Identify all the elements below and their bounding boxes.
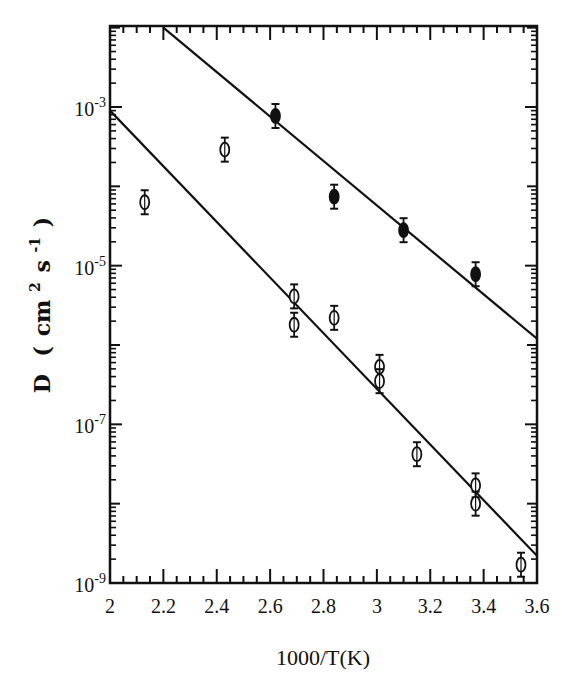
y-axis-label: D ( cm 2 s -1 )	[19, 217, 55, 393]
x-tick-label: 3.6	[525, 595, 550, 617]
y-tick-label: 10-9	[74, 571, 106, 596]
y-tick-label: 10-7	[74, 412, 106, 437]
fit-lines	[110, 28, 537, 556]
filled-data-point	[330, 185, 339, 209]
x-tick-label: 2	[105, 595, 115, 617]
x-axis-label: 1000/T(K)	[276, 645, 370, 670]
y-axis-label-text: D ( cm 2 s -1 )	[19, 217, 55, 393]
x-tick-label: 2.8	[311, 595, 336, 617]
open-data-point	[220, 138, 229, 162]
y-tick-labels: 10-310-510-710-9	[74, 95, 106, 596]
open-data-point	[290, 313, 299, 337]
x-tick-label: 3.2	[418, 595, 443, 617]
x-tick-label: 3.4	[471, 595, 496, 617]
open-data-point	[412, 442, 421, 466]
open-data-point	[516, 553, 525, 577]
x-tick-label: 2.2	[151, 595, 176, 617]
x-tick-label: 3	[372, 595, 382, 617]
filled-data-point	[471, 262, 480, 286]
x-tick-label: 2.6	[258, 595, 283, 617]
chart-svg: 22.22.42.62.833.23.43.6 10-310-510-710-9…	[0, 0, 562, 687]
y-tick-label: 10-3	[74, 95, 106, 120]
filled-data-point	[399, 218, 408, 242]
x-tick-label: 2.4	[204, 595, 229, 617]
upper-fit-line	[163, 28, 537, 339]
x-tick-labels: 22.22.42.62.833.23.43.6	[105, 595, 550, 617]
open-data-point	[140, 190, 149, 214]
open-data-point	[330, 306, 339, 330]
data-points	[140, 104, 525, 577]
y-tick-label: 10-5	[74, 254, 106, 279]
